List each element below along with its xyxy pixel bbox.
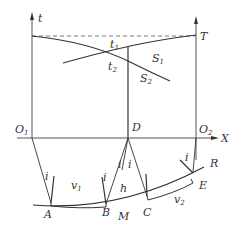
diagram-canvas: t T t1 t2 S1 S2 X O1 O2 D i i i i i h v1… <box>0 0 241 230</box>
v2-label: v2 <box>174 193 185 207</box>
C-label: C <box>143 206 152 219</box>
angle-i-A: i <box>45 170 49 183</box>
R-label: R <box>209 157 218 170</box>
M-label: M <box>117 210 130 223</box>
S2-label: S2 <box>140 72 153 86</box>
O1-label: O1 <box>15 123 29 137</box>
angle-i-E: i <box>185 151 189 164</box>
t-axis-arrow-icon <box>30 12 34 20</box>
O2-label: O2 <box>199 123 213 137</box>
normal-A <box>51 176 54 203</box>
B-label: B <box>101 206 110 219</box>
angle-i-B: i <box>103 171 107 184</box>
h-label: h <box>120 182 127 195</box>
A-label: A <box>43 208 52 221</box>
curve-S1 <box>63 35 196 63</box>
S1-label: S1 <box>152 52 164 66</box>
D-label: D <box>131 121 141 134</box>
t-axis-label: t <box>38 12 43 25</box>
t1-label: t1 <box>110 38 119 52</box>
v1-label: v1 <box>71 179 82 193</box>
E-label: E <box>198 179 207 192</box>
t2-label: t2 <box>108 60 117 74</box>
angle-i-D-right: i <box>128 158 132 171</box>
angle-i-D-left: i <box>118 158 122 171</box>
right-axis-arrow-icon <box>194 16 198 24</box>
x-axis-label: X <box>220 132 230 145</box>
T-label: T <box>200 30 209 43</box>
